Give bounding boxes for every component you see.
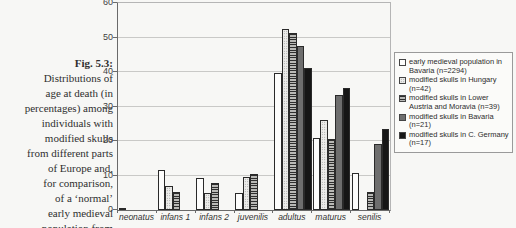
legend-entry: modified skulls in Lower Austria and Mor…	[399, 94, 509, 111]
bar-neonatus-s1	[119, 208, 127, 210]
chart-legend: early medieval population in Bavaria (n=…	[394, 52, 513, 153]
gridline	[118, 71, 390, 72]
bar-maturus-s1	[313, 138, 321, 210]
bar-infans1-s3	[173, 192, 181, 210]
x-axis-label: infans 1	[156, 212, 195, 222]
y-axis-label: 30	[88, 101, 113, 111]
bar-maturus-s3	[328, 139, 336, 210]
legend-label: modified skulls in Hungary (n=42)	[409, 76, 509, 93]
x-axis-label: maturus	[311, 212, 350, 222]
x-axis-label: senilis	[350, 212, 389, 222]
bar-senilis-s1	[352, 173, 360, 210]
y-axis-label: 60	[88, 0, 113, 7]
legend-label: modified skulls in C. Germany (n=17)	[409, 131, 509, 148]
caption-line: population from	[0, 221, 113, 228]
x-axis-label: adultus	[272, 212, 311, 222]
x-axis-label: infans 2	[195, 212, 234, 222]
bar-adultus-s3	[289, 33, 297, 210]
legend-swatch-dots	[399, 77, 406, 84]
bar-juvenilis-s1	[235, 193, 243, 210]
y-axis-label: 50	[88, 32, 113, 42]
legend-label: modified skulls in Lower Austria and Mor…	[409, 94, 509, 111]
y-axis-label: 10	[88, 170, 113, 180]
legend-entry: modified skulls in Bavaria (n=21)	[399, 113, 509, 130]
bar-infans1-s1	[158, 170, 166, 210]
bar-adultus-s2	[282, 29, 290, 210]
legend-swatch-black	[399, 132, 406, 139]
legend-swatch-gray	[399, 114, 406, 121]
bar-adultus-s4	[297, 46, 305, 210]
legend-entry: modified skulls in C. Germany (n=17)	[399, 131, 509, 148]
caption-line: individuals with	[0, 116, 113, 131]
bar-infans2-s3	[211, 183, 219, 210]
chart-plot-area	[117, 2, 391, 211]
x-axis-label: neonatus	[117, 212, 156, 222]
caption-line: age at death (in	[0, 86, 113, 101]
bar-infans2-s1	[196, 178, 204, 210]
legend-swatch-hlines	[399, 95, 406, 102]
y-axis-label: 40	[88, 66, 113, 76]
bar-senilis-s4	[374, 144, 382, 210]
bar-senilis-s5	[382, 129, 390, 210]
legend-entry: early medieval population in Bavaria (n=…	[399, 58, 509, 75]
y-axis-label: 20	[88, 135, 113, 145]
figure-5-3: Fig. 5.3:Distributions ofage at death (i…	[0, 0, 516, 228]
bar-maturus-s5	[343, 88, 351, 210]
x-axis-label: juvenilis	[234, 212, 273, 222]
bar-juvenilis-s3	[250, 174, 258, 210]
legend-swatch-white	[399, 59, 406, 66]
bar-infans1-s2	[165, 186, 173, 210]
bar-adultus-s1	[274, 73, 282, 210]
bar-infans2-s2	[204, 193, 212, 210]
legend-entry: modified skulls in Hungary (n=42)	[399, 76, 509, 93]
x-axis-tick	[389, 210, 390, 213]
gridline	[118, 37, 390, 38]
bar-juvenilis-s2	[243, 177, 251, 210]
legend-label: modified skulls in Bavaria (n=21)	[409, 113, 509, 130]
caption-line: from different parts	[0, 146, 113, 161]
bar-maturus-s2	[320, 120, 328, 210]
bar-maturus-s4	[335, 95, 343, 210]
y-axis-label: 0	[88, 204, 113, 214]
bar-adultus-s5	[304, 68, 312, 210]
legend-label: early medieval population in Bavaria (n=…	[409, 58, 509, 75]
bar-senilis-s3	[367, 192, 375, 210]
